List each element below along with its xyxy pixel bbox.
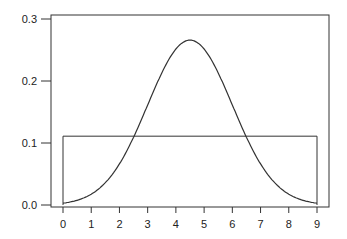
y-axis: 0.00.10.20.3	[22, 13, 51, 211]
plot-frame	[51, 15, 329, 207]
y-tick-label: 0.1	[22, 137, 37, 149]
y-tick-label: 0.0	[22, 199, 37, 211]
y-tick-label: 0.3	[22, 13, 37, 25]
x-axis: 0123456789	[60, 207, 320, 230]
y-tick-label: 0.2	[22, 75, 37, 87]
uniform-density-line	[63, 136, 317, 205]
chart: 0.00.10.20.3 0123456789	[0, 0, 347, 239]
normal-density-curve	[63, 40, 317, 203]
x-tick-label: 9	[314, 218, 320, 230]
x-tick-label: 0	[60, 218, 66, 230]
x-tick-label: 8	[286, 218, 292, 230]
x-tick-label: 1	[88, 218, 94, 230]
x-tick-label: 2	[116, 218, 122, 230]
x-tick-label: 6	[229, 218, 235, 230]
x-tick-label: 7	[257, 218, 263, 230]
x-tick-label: 4	[173, 218, 179, 230]
x-tick-label: 3	[145, 218, 151, 230]
x-tick-label: 5	[201, 218, 207, 230]
